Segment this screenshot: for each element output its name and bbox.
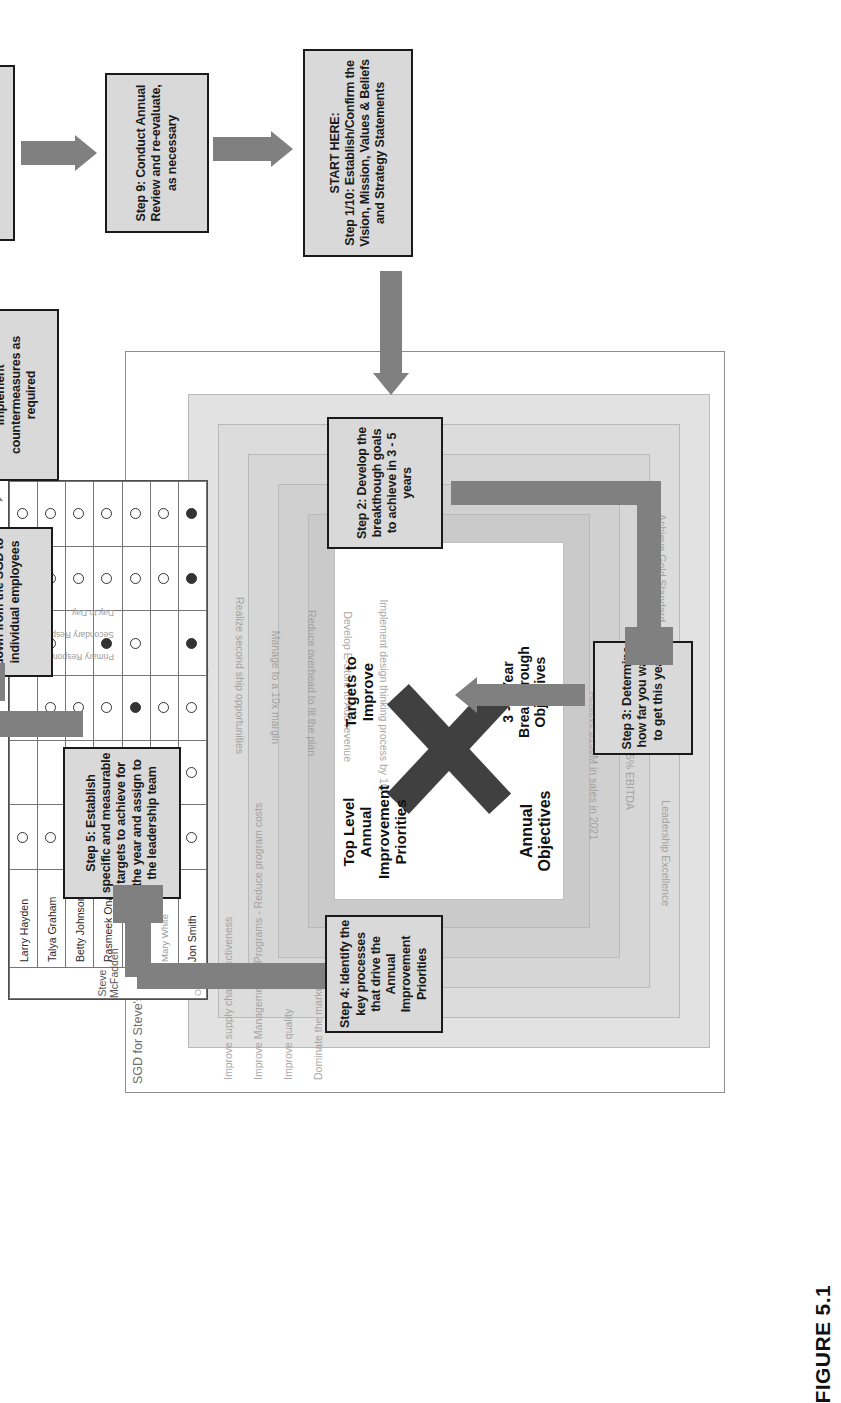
step-5-box[interactable]: Step 5: Establish specific and measurabl… <box>63 747 181 899</box>
step-9-box[interactable]: Step 9: Conduct Annual Review and re-eva… <box>105 73 209 233</box>
x-label-annual-improvement-priorities: Top Level Annual Improvement Priorities <box>340 772 409 892</box>
start-here-title: START HERE: <box>327 112 342 193</box>
arrow-step3-to-step4 <box>455 673 585 717</box>
matrix-left-item-2: Improve quality <box>282 1009 294 1080</box>
step-9-label: Step 9: Conduct Annual Review and re-eva… <box>134 78 180 228</box>
grid-person-name: Jon Smith <box>178 869 206 967</box>
step-5-label: Step 5: Establish specific and measurabl… <box>83 752 159 894</box>
matrix-left-item-1: Improve Management of Programs - Reduce … <box>252 803 264 1080</box>
step-2-label: Step 2: Develop the breakthough goals to… <box>354 422 415 544</box>
matrix-bottom-item-2: Leadership Excellence <box>660 800 672 906</box>
step-8-box[interactable]: Step 8: Conduct monthly performance revi… <box>0 65 15 241</box>
table-row: Jon Smith <box>178 481 206 998</box>
arrow-step8-to-step9 <box>21 131 101 175</box>
matrix-left-item-3: Dominate the market <box>312 982 324 1079</box>
arrow-start-to-step2 <box>371 271 411 395</box>
matrix-left-item-0: Improve supply chain effectiveness <box>222 917 234 1080</box>
matrix-right-item-3: Manage to a 10x margin <box>270 631 282 744</box>
step-7-box[interactable]: Step 7: Execute against the Targets to I… <box>0 309 59 481</box>
step-6-label: Step 6: Cascade goals down from the SGD … <box>0 532 22 672</box>
start-here-box[interactable]: START HERE: Step 1/10: Establish/Confirm… <box>303 49 413 257</box>
table-row: Betty Johnson <box>65 481 93 998</box>
matrix-right-item-4: Reduce overhead to fit the plan <box>306 610 318 756</box>
step-7-label: Step 7: Execute against the Targets to I… <box>0 314 39 476</box>
figure-canvas: SGD for Steve's Muffler Bearing Company … <box>41 5 801 1185</box>
step-2-box[interactable]: Step 2: Develop the breakthough goals to… <box>327 417 443 549</box>
x-label-targets-to-improve: Targets to Improve <box>342 644 377 740</box>
legend-day-to-day: Day to Day <box>71 608 113 618</box>
matrix-bottom-item-1: 15% EBITDA <box>624 748 636 810</box>
grid-person-name: Talya Graham <box>37 869 65 967</box>
step-6-box[interactable]: Step 6: Cascade goals down from the SGD … <box>0 527 53 677</box>
matrix-right-item-2: Realize second ship opportunities <box>234 597 246 754</box>
step-4-box[interactable]: Step 4: Identify the key processes that … <box>325 915 443 1033</box>
x-label-annual-objectives: Annual Objectives <box>518 776 555 886</box>
arrow-step6-to-step7 <box>0 479 5 525</box>
step-4-label: Step 4: Identify the key processes that … <box>338 920 430 1028</box>
start-here-label: Step 1/10: Establish/Confirm the Vision,… <box>342 54 388 252</box>
grid-person-name: Larry Hayden <box>9 869 37 967</box>
figure-caption: FIGURE 5.1 <box>811 1285 835 1403</box>
arrow-step9-to-start <box>213 127 299 171</box>
